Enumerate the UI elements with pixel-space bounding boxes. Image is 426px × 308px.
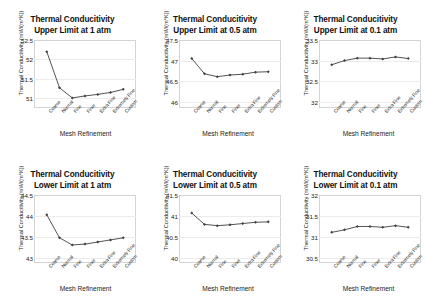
y-tick-label: 40.5 <box>145 233 178 240</box>
y-tick-label: 31 <box>285 233 318 240</box>
chart-title-line1: Thermal Conducitivity <box>314 170 398 179</box>
data-point-marker <box>229 74 232 77</box>
data-point-marker <box>109 91 112 94</box>
y-tick-label: 51 <box>0 95 33 102</box>
plot-area: 52.55251.551CoarseNormalFineFinerExtra F… <box>34 40 136 108</box>
x-axis-label: Mesh Refinement <box>175 130 281 137</box>
plot-area: 44.54443.543CoarseNormalFineFinerExtra F… <box>34 195 136 263</box>
chart-panel-6: Thermal ConducitivityLower Limit at 0.1 … <box>285 155 426 308</box>
chart-panel-5: Thermal ConducitivityLower Limit at 0.5 … <box>145 155 285 308</box>
y-tick-label: 40 <box>145 254 178 261</box>
series-line <box>47 52 124 98</box>
chart-panel-3: Thermal ConducitivityUpper Limit at 0.1 … <box>285 0 426 155</box>
data-point-marker <box>267 220 270 223</box>
y-axis-label: Thermal Conducitivity (mW/(m*K)) <box>303 1 309 105</box>
chart-panel-1: Thermal ConducitivityUpper Limit at 1 at… <box>0 0 145 155</box>
plot-area: 41.54140.540CoarseNormalFineFinerExtra F… <box>179 195 281 263</box>
chart-title-line1: Thermal Conducitivity <box>314 15 398 24</box>
y-tick-label: 32.5 <box>285 78 318 85</box>
data-point-marker <box>394 224 397 227</box>
data-series <box>34 195 136 263</box>
y-tick-label: 31.5 <box>285 212 318 219</box>
y-tick-label: 46.5 <box>145 78 178 85</box>
data-point-marker <box>122 236 125 239</box>
y-tick-label: 46 <box>145 98 178 105</box>
data-point-marker <box>241 222 244 225</box>
y-tick-label: 33 <box>285 57 318 64</box>
data-point-marker <box>381 226 384 229</box>
y-axis-label: Thermal Conducitivity (mW/(m*K)) <box>163 156 169 260</box>
chart-grid: Thermal ConducitivityUpper Limit at 1 at… <box>0 0 426 308</box>
data-series <box>319 195 421 263</box>
x-axis-label: Mesh Refinement <box>175 285 281 292</box>
y-tick-label: 52.5 <box>0 37 33 44</box>
x-axis-label: Mesh Refinement <box>315 285 422 292</box>
data-point-marker <box>254 71 257 74</box>
y-tick-label: 44.5 <box>0 192 33 199</box>
data-point-marker <box>356 225 359 228</box>
y-tick-label: 33.5 <box>285 37 318 44</box>
x-axis-label: Mesh Refinement <box>30 285 141 292</box>
y-tick-label: 43 <box>0 254 33 261</box>
y-tick-label: 51.5 <box>0 75 33 82</box>
data-point-marker <box>356 57 359 60</box>
data-point-marker <box>330 63 333 66</box>
plot-area: 47.54746.546CoarseNormalFineFinerExtra F… <box>179 40 281 108</box>
data-point-marker <box>84 243 87 246</box>
data-point-marker <box>267 70 270 73</box>
y-axis-label: Thermal Conducitivity (mW/(m*K)) <box>18 1 24 105</box>
data-point-marker <box>216 75 219 78</box>
data-point-marker <box>241 73 244 76</box>
chart-title-line1: Thermal Conducitivity <box>31 170 115 179</box>
data-point-marker <box>45 50 48 53</box>
y-tick-label: 47.5 <box>145 37 178 44</box>
data-series <box>179 195 281 263</box>
data-point-marker <box>216 224 219 227</box>
data-point-marker <box>343 59 346 62</box>
chart-panel-2: Thermal ConducitivityUpper Limit at 0.5 … <box>145 0 285 155</box>
data-point-marker <box>109 238 112 241</box>
chart-title-line1: Thermal Conducitivity <box>31 15 115 24</box>
y-tick-label: 44 <box>0 212 33 219</box>
y-tick-label: 52 <box>0 56 33 63</box>
data-point-marker <box>122 88 125 91</box>
data-point-marker <box>96 241 99 244</box>
data-point-marker <box>330 231 333 234</box>
data-point-marker <box>369 225 372 228</box>
y-axis-label: Thermal Conducitivity (mW/(m*K)) <box>18 156 24 260</box>
data-series <box>34 40 136 108</box>
y-tick-label: 32 <box>285 192 318 199</box>
data-point-marker <box>381 57 384 60</box>
chart-panel-4: Thermal ConducitivityLower Limit at 1 at… <box>0 155 145 308</box>
series-line <box>47 215 124 245</box>
data-point-marker <box>96 93 99 96</box>
y-tick-label: 41.5 <box>145 192 178 199</box>
chart-title-line1: Thermal Conducitivity <box>173 170 257 179</box>
data-point-marker <box>407 57 410 60</box>
chart-title-line1: Thermal Conducitivity <box>173 15 257 24</box>
plot-area: 3231.53130.5CoarseNormalFineFinerExtra F… <box>319 195 421 263</box>
data-point-marker <box>229 223 232 226</box>
data-point-marker <box>407 226 410 229</box>
plot-area: 33.53332.532CoarseNormalFineFinerExtra F… <box>319 40 421 108</box>
data-point-marker <box>343 228 346 231</box>
data-point-marker <box>84 94 87 97</box>
x-axis-label: Mesh Refinement <box>30 130 141 137</box>
y-tick-label: 30.5 <box>285 254 318 261</box>
data-point-marker <box>369 57 372 60</box>
y-tick-label: 32 <box>285 98 318 105</box>
y-tick-label: 41 <box>145 212 178 219</box>
y-tick-label: 47 <box>145 57 178 64</box>
data-point-marker <box>254 221 257 224</box>
data-point-marker <box>394 55 397 58</box>
x-axis-label: Mesh Refinement <box>315 130 422 137</box>
y-axis-label: Thermal Conducitivity (mW/(m*K)) <box>303 156 309 260</box>
data-series <box>179 40 281 108</box>
data-series <box>319 40 421 108</box>
y-axis-label: Thermal Conducitivity (mW/(m*K)) <box>163 1 169 105</box>
y-tick-label: 43.5 <box>0 233 33 240</box>
